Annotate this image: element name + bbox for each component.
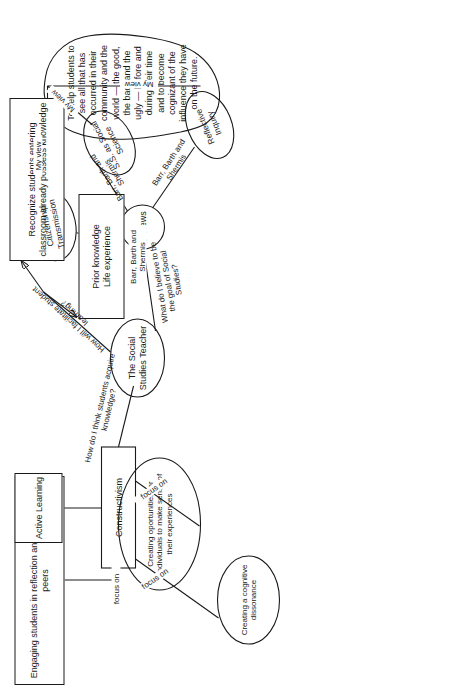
- node-active-learning[interactable]: Active Learning: [14, 473, 62, 543]
- node-active-learning-label: Active Learning: [33, 475, 44, 541]
- concept-map-rotator: Engaging students in reflection and dial…: [0, 0, 451, 698]
- node-social-studies-teacher-label: The Social Studies Teacher: [126, 321, 147, 395]
- node-cognitive-dissonance[interactable]: Creating a cognitive dissonance: [228, 558, 268, 642]
- edge-label-bbs-citizenship: Barr, Barth and Shermis: [128, 225, 146, 289]
- node-prior-knowledge[interactable]: Prior knowledge Life experience: [78, 194, 124, 319]
- edge-label-my-view-citizenship: My view: [33, 137, 42, 175]
- edge-label-my-view-reflective: My view: [120, 79, 158, 88]
- node-cognitive-dissonance-label: Creating a cognitive dissonance: [239, 558, 258, 642]
- edge-constructivism-to-teacher: [118, 386, 133, 447]
- node-prior-knowledge-label: Prior knowledge Life experience: [90, 222, 111, 291]
- node-social-studies-teacher[interactable]: The Social Studies Teacher: [122, 321, 152, 395]
- concept-map-content: Engaging students in reflection and dial…: [0, 0, 451, 698]
- edge-label-focus-on-engaging: focus on: [111, 565, 120, 613]
- node-constructivism-label: Constructivism: [113, 476, 124, 539]
- node-constructivism[interactable]: Constructivism: [101, 447, 135, 568]
- concept-map-canvas: Engaging students in reflection and dial…: [0, 0, 451, 698]
